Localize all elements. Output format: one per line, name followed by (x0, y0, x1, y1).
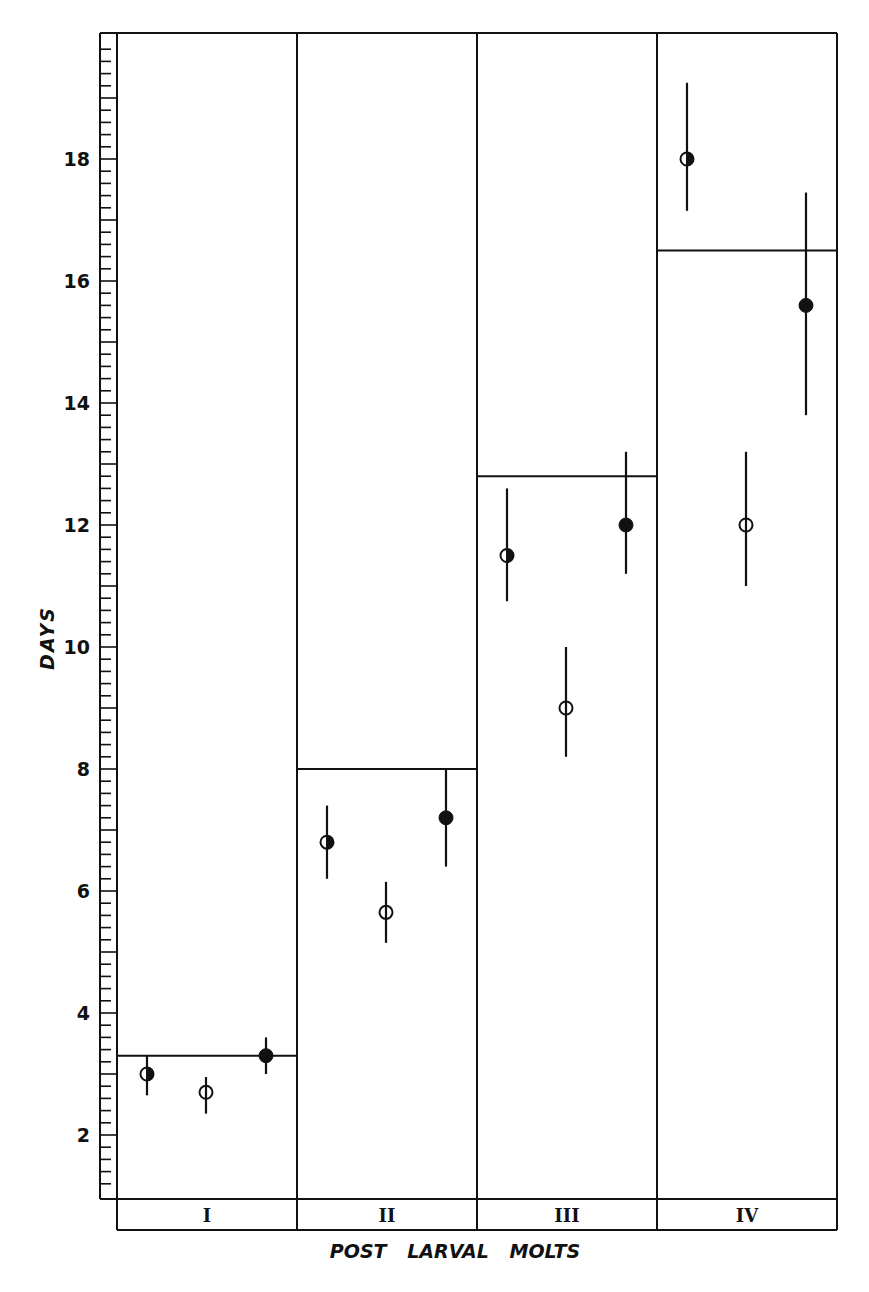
data-point-open (200, 1077, 213, 1114)
filled-circle-marker (619, 518, 633, 532)
y-tick-label: 12 (50, 515, 90, 535)
data-point-filled (259, 1037, 273, 1074)
y-axis-ruler (100, 33, 837, 1230)
data-point-half-filled (321, 806, 334, 879)
category-label-II: II (297, 1203, 477, 1229)
data-point-half-filled (501, 488, 514, 601)
filled-circle-marker (799, 298, 813, 312)
y-tick-label: 8 (50, 759, 90, 779)
data-point-open (560, 647, 573, 757)
x-axis-label: POST LARVAL MOLTS (330, 1240, 580, 1262)
data-point-filled (439, 769, 453, 867)
data-point-half-filled (141, 1056, 154, 1096)
filled-circle-marker (439, 811, 453, 825)
filled-circle-marker (259, 1049, 273, 1063)
category-label-I: I (117, 1203, 297, 1229)
figure-caption-fragment (130, 1284, 830, 1292)
data-point-open (740, 452, 753, 586)
y-tick-label: 4 (50, 1003, 90, 1023)
y-tick-label: 16 (50, 271, 90, 291)
y-tick-label: 2 (50, 1125, 90, 1145)
category-label-IV: IV (657, 1203, 837, 1229)
data-point-half-filled (681, 83, 694, 211)
molt-panels (117, 33, 837, 1230)
data-point-open (380, 882, 393, 943)
data-point-filled (799, 193, 813, 416)
y-tick-label: 14 (50, 393, 90, 413)
y-axis-label: DAYS (36, 606, 58, 670)
molt-days-chart (0, 0, 869, 1292)
category-label-III: III (477, 1203, 657, 1229)
y-tick-label: 6 (50, 881, 90, 901)
data-point-filled (619, 452, 633, 574)
y-tick-label: 18 (50, 149, 90, 169)
